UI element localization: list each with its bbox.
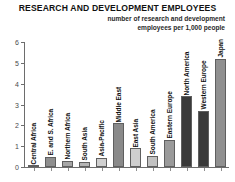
x-tick <box>93 168 110 171</box>
bar-category-label: Eastern Europe <box>166 92 173 139</box>
chart-subtitle-line-2: employees per 1,000 people <box>0 24 225 33</box>
chart-subtitle-line-1: number of research and development <box>0 15 225 24</box>
bar[interactable]: Asia-Pacific <box>96 158 107 167</box>
y-tick-mark <box>21 42 24 43</box>
bar[interactable]: East Asia <box>130 148 141 167</box>
x-tick <box>76 168 93 171</box>
bar-slot: Northern Africa <box>59 42 76 167</box>
x-tick-mark <box>119 168 120 171</box>
x-tick-mark <box>187 168 188 171</box>
x-tick-mark <box>34 168 35 171</box>
bar-category-label: Northern Africa <box>64 113 71 160</box>
bar-category-label: Western Europe <box>200 61 207 110</box>
bar-slot: South America <box>144 42 161 167</box>
x-tick <box>195 168 212 171</box>
y-tick-mark <box>21 167 24 168</box>
bar-slot: Central Africa <box>25 42 42 167</box>
bar-category-label: East Asia <box>132 119 139 148</box>
bar[interactable]: Eastern Europe <box>164 140 175 167</box>
bar-category-label: Asia-Pacific <box>98 120 105 156</box>
x-tick <box>127 168 144 171</box>
bar-category-label: Japan <box>217 39 224 58</box>
x-tick-mark <box>153 168 154 171</box>
bar-category-label: North America <box>183 51 190 95</box>
bar[interactable]: Middle East <box>113 123 124 167</box>
bar-slot: Western Europe <box>195 42 212 167</box>
y-tick-label: 1 <box>15 143 19 150</box>
y-tick-mark <box>21 146 24 147</box>
bar-category-label: Central Africa <box>30 122 37 164</box>
plot-area: 0123456 Central AfricaE. and S. AfricaNo… <box>24 42 229 168</box>
bar-category-label: South Asia <box>81 128 88 161</box>
bar-series: Central AfricaE. and S. AfricaNorthern A… <box>25 42 229 167</box>
x-tick-mark <box>85 168 86 171</box>
x-tick-mark <box>221 168 222 171</box>
bar-category-label: South America <box>149 110 156 155</box>
x-tick-mark <box>68 168 69 171</box>
bar-category-label: Middle East <box>115 87 122 123</box>
x-tick <box>110 168 127 171</box>
x-axis-ticks <box>25 168 229 171</box>
y-tick-mark <box>21 125 24 126</box>
bar[interactable]: Northern Africa <box>62 161 73 167</box>
bar[interactable]: South Asia <box>79 162 90 167</box>
bar[interactable]: E. and S. Africa <box>45 157 56 167</box>
bar-slot: E. and S. Africa <box>42 42 59 167</box>
bar-slot: North America <box>178 42 195 167</box>
y-tick-label: 5 <box>15 59 19 66</box>
x-tick-mark <box>136 168 137 171</box>
bar-category-label: E. and S. Africa <box>47 109 54 156</box>
bar[interactable]: Western Europe <box>198 111 209 167</box>
y-tick-mark <box>21 84 24 85</box>
bar[interactable]: Central Africa <box>28 165 39 167</box>
y-tick-mark <box>21 63 24 64</box>
y-tick-label: 4 <box>15 80 19 87</box>
y-tick-label: 2 <box>15 122 19 129</box>
x-tick <box>212 168 229 171</box>
chart-subtitle: number of research and development emplo… <box>0 15 225 32</box>
x-tick-mark <box>102 168 103 171</box>
x-tick <box>25 168 42 171</box>
x-tick-mark <box>51 168 52 171</box>
bar[interactable]: Japan <box>215 59 226 167</box>
x-tick <box>42 168 59 171</box>
bar-slot: South Asia <box>76 42 93 167</box>
x-tick <box>178 168 195 171</box>
bar[interactable]: North America <box>181 96 192 167</box>
x-tick <box>144 168 161 171</box>
x-tick <box>59 168 76 171</box>
x-tick-mark <box>204 168 205 171</box>
bar-slot: East Asia <box>127 42 144 167</box>
bar-slot: Middle East <box>110 42 127 167</box>
y-tick-mark <box>21 105 24 106</box>
y-tick-label: 6 <box>15 39 19 46</box>
x-tick <box>161 168 178 171</box>
rd-employees-bar-chart: RESEARCH AND DEVELOPMENT EMPLOYEES numbe… <box>0 0 235 182</box>
chart-title: RESEARCH AND DEVELOPMENT EMPLOYEES <box>0 3 235 13</box>
bar-slot: Eastern Europe <box>161 42 178 167</box>
bar-slot: Asia-Pacific <box>93 42 110 167</box>
y-tick-label: 0 <box>15 164 19 171</box>
y-tick-label: 3 <box>15 101 19 108</box>
x-tick-mark <box>170 168 171 171</box>
bar-slot: Japan <box>212 42 229 167</box>
bar[interactable]: South America <box>147 156 158 167</box>
